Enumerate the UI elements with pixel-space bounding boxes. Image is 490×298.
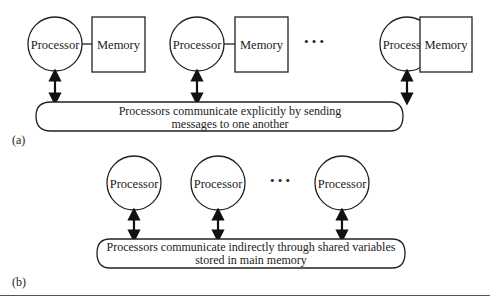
processor-label: Processor — [110, 177, 159, 191]
processor-node-b3: Processor — [315, 156, 369, 236]
figure-a: Processor Memory Processor Memory • • • … — [12, 17, 472, 147]
ellipsis: • • • — [270, 173, 290, 188]
processor-node-b1: Processor — [107, 156, 161, 236]
memory-label: Memory — [424, 38, 468, 52]
processor-label: Processor — [318, 177, 367, 191]
processor-node-a3: Processor Memory — [380, 17, 472, 99]
bus-text-line1: Processors communicate indirectly throug… — [107, 240, 396, 254]
diagram-canvas: Processor Memory Processor Memory • • • … — [0, 0, 490, 298]
processor-node-a1: Processor Memory — [28, 17, 145, 99]
figure-a-label: (a) — [12, 133, 25, 147]
processor-node-b2: Processor — [191, 156, 245, 236]
bus-text-line1: Processors communicate explicitly by sen… — [119, 104, 342, 118]
processor-label: Processor — [173, 38, 222, 52]
memory-label: Memory — [240, 38, 284, 52]
figure-b: Processor Processor • • • Processor Proc… — [12, 156, 405, 289]
ellipsis: • • • — [304, 34, 324, 49]
processor-label: Processor — [31, 38, 80, 52]
figure-b-label: (b) — [12, 275, 26, 289]
bus-text-line2: messages to one another — [172, 117, 289, 131]
memory-label: Memory — [97, 38, 141, 52]
bus-text-line2: stored in main memory — [195, 253, 307, 267]
processor-node-a2: Processor Memory — [170, 17, 288, 99]
processor-label: Processor — [194, 177, 243, 191]
